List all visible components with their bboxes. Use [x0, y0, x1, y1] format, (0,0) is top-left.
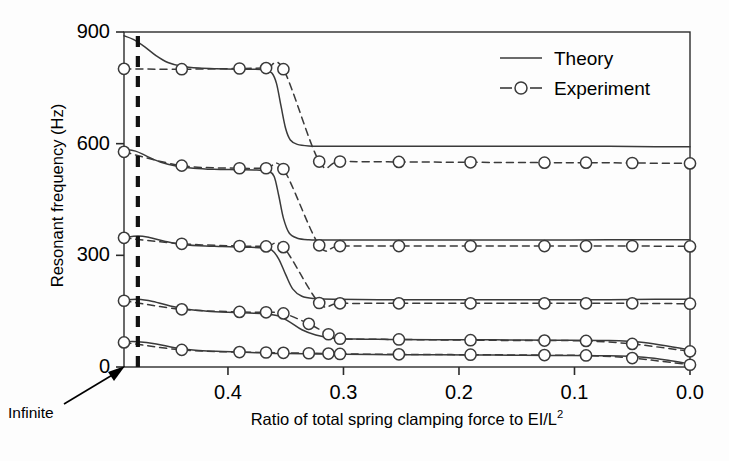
- data-point-marker: [627, 157, 638, 168]
- data-point-marker: [260, 241, 271, 252]
- data-point-marker: [627, 352, 638, 363]
- data-point-marker: [393, 240, 404, 251]
- x-axis-title: Ratio of total spring clamping force to …: [124, 408, 690, 429]
- series-line-8: [124, 342, 690, 364]
- data-point-marker: [539, 240, 550, 251]
- infinite-arrow-head: [108, 366, 125, 381]
- legend-label-theory: Theory: [554, 48, 614, 69]
- legend-layer: TheoryExperiment: [500, 48, 651, 99]
- data-point-marker: [278, 242, 289, 253]
- data-point-marker: [118, 295, 129, 306]
- legend-entry-theory: Theory: [500, 48, 614, 69]
- data-point-marker: [465, 335, 476, 346]
- x-axis-title-exponent: 2: [557, 408, 563, 420]
- data-point-marker: [684, 298, 695, 309]
- data-point-marker: [684, 346, 695, 357]
- data-point-marker: [176, 238, 187, 249]
- data-point-marker: [580, 240, 591, 251]
- data-point-marker: [118, 232, 129, 243]
- x-axis-title-text: Ratio of total spring clamping force to …: [251, 410, 557, 428]
- data-point-marker: [627, 298, 638, 309]
- data-point-marker: [234, 240, 245, 251]
- data-point-marker: [234, 347, 245, 358]
- series-line-7: [124, 301, 690, 352]
- data-point-marker: [314, 297, 325, 308]
- x-tick-label-0.2: 0.2: [445, 381, 473, 403]
- legend-swatch-circle: [515, 82, 527, 94]
- data-point-marker: [580, 298, 591, 309]
- data-point-marker: [684, 241, 695, 252]
- data-point-marker: [278, 64, 289, 75]
- x-tick-label-0.1: 0.1: [561, 381, 589, 403]
- data-point-marker: [580, 350, 591, 361]
- series-7: [118, 295, 695, 357]
- data-point-marker: [334, 156, 345, 167]
- data-point-marker: [234, 306, 245, 317]
- y-tick-label-600: 600: [77, 132, 110, 154]
- resonant-frequency-chart: 03006009000.40.30.20.10.0 TheoryExperime…: [0, 0, 729, 461]
- data-point-marker: [118, 146, 129, 157]
- data-point-marker: [465, 240, 476, 251]
- data-point-marker: [176, 304, 187, 315]
- series-line-9: [124, 342, 690, 364]
- data-point-marker: [118, 337, 129, 348]
- figure-root: 03006009000.40.30.20.10.0 TheoryExperime…: [0, 0, 729, 461]
- series-line-5: [124, 238, 690, 307]
- data-point-marker: [684, 158, 695, 169]
- data-point-marker: [334, 348, 345, 359]
- data-point-marker: [393, 334, 404, 345]
- data-point-marker: [234, 63, 245, 74]
- data-point-marker: [393, 349, 404, 360]
- x-tick-label-0.0: 0.0: [676, 381, 704, 403]
- data-point-marker: [278, 347, 289, 358]
- data-point-marker: [118, 63, 129, 74]
- annotation-layer: [64, 366, 125, 404]
- data-point-marker: [334, 333, 345, 344]
- data-point-marker: [303, 318, 314, 329]
- data-point-marker: [234, 163, 245, 174]
- data-point-marker: [260, 307, 271, 318]
- series-line-6: [124, 299, 690, 350]
- series-line-3: [124, 152, 690, 251]
- infinite-arrow-shaft: [64, 374, 114, 404]
- data-point-marker: [314, 240, 325, 251]
- y-axis-title: Resonant frequency (Hz): [48, 56, 67, 336]
- data-point-marker: [580, 157, 591, 168]
- data-point-marker: [580, 335, 591, 346]
- series-6: [124, 299, 690, 350]
- data-point-marker: [539, 349, 550, 360]
- data-point-marker: [684, 359, 695, 370]
- data-point-marker: [627, 240, 638, 251]
- data-point-marker: [334, 240, 345, 251]
- data-point-marker: [323, 348, 334, 359]
- y-tick-label-0: 0: [99, 355, 110, 377]
- data-point-marker: [260, 163, 271, 174]
- data-point-marker: [278, 308, 289, 319]
- data-point-marker: [539, 335, 550, 346]
- data-point-marker: [539, 298, 550, 309]
- data-point-marker: [260, 63, 271, 74]
- y-tick-label-900: 900: [77, 20, 110, 42]
- data-point-marker: [334, 298, 345, 309]
- series-8: [124, 342, 690, 364]
- data-point-marker: [627, 338, 638, 349]
- data-point-marker: [393, 156, 404, 167]
- x-tick-label-0.3: 0.3: [330, 381, 358, 403]
- infinite-annotation-label: Infinite: [8, 404, 54, 422]
- data-point-marker: [260, 347, 271, 358]
- x-tick-label-0.4: 0.4: [214, 381, 242, 403]
- data-point-marker: [278, 163, 289, 174]
- y-tick-label-300: 300: [77, 243, 110, 265]
- data-point-marker: [465, 157, 476, 168]
- data-point-marker: [176, 344, 187, 355]
- data-point-marker: [314, 156, 325, 167]
- legend-entry-experiment: Experiment: [500, 78, 651, 99]
- data-point-marker: [465, 349, 476, 360]
- series-5: [118, 232, 695, 309]
- data-point-marker: [465, 298, 476, 309]
- data-point-marker: [176, 160, 187, 171]
- data-point-marker: [303, 348, 314, 359]
- legend-label-experiment: Experiment: [554, 78, 651, 99]
- data-point-marker: [323, 329, 334, 340]
- data-point-marker: [393, 298, 404, 309]
